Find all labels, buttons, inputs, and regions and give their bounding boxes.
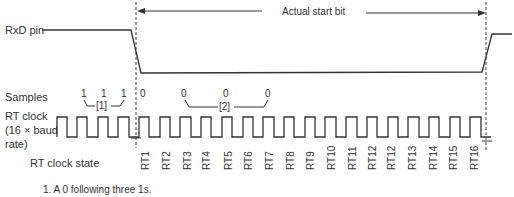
sample-value: 0 xyxy=(265,88,271,99)
rt-state-label: RT6 xyxy=(243,151,254,170)
bracket-2-right xyxy=(234,100,268,107)
rt-state-label: RT13 xyxy=(407,145,418,170)
rt-clock-waveform xyxy=(57,117,491,137)
rxd-pin-label: RxD pin xyxy=(5,24,44,36)
footnote: 1. A 0 following three 1s. xyxy=(43,184,151,195)
sample-value: 0 xyxy=(140,88,146,99)
rt-clock-label-line3: rate) xyxy=(5,138,28,150)
bracket-1-left xyxy=(84,100,95,106)
samples-row: 1 1 1 0 0 0 0 [1] [2] xyxy=(81,88,271,112)
sample-value: 1 xyxy=(81,88,87,99)
sample-value: 0 xyxy=(223,88,229,99)
bracket-2-label: [2] xyxy=(219,101,230,112)
rt-state-labels: RT1 RT2 RT3 RT4 RT5 RT6 RT7 RT8 RT9 RT10… xyxy=(140,145,480,170)
rt-clock-label-line1: RT clock xyxy=(5,110,48,122)
rt-state-label: RT12 xyxy=(367,145,378,170)
rt-state-label: RT5 xyxy=(223,151,234,170)
actual-start-bit-label: Actual start bit xyxy=(282,6,346,17)
bracket-2-left xyxy=(185,100,218,107)
rt-state-label: RT16 xyxy=(469,145,480,170)
uart-start-bit-timing-diagram: RxD pin Samples RT clock (16 × baud rate… xyxy=(0,0,514,197)
rt-state-label: RT4 xyxy=(201,151,212,170)
rt-state-label: RT14 xyxy=(428,145,439,170)
rt-state-label: RT8 xyxy=(285,151,296,170)
rt-state-label: RT12 xyxy=(386,145,397,170)
arrowhead-left-icon xyxy=(137,8,145,14)
rt-state-label: RT1 xyxy=(140,151,151,170)
rt-state-label: RT9 xyxy=(305,151,316,170)
sample-value: 1 xyxy=(121,88,127,99)
arrowhead-right-icon xyxy=(478,10,486,16)
sample-value: 1 xyxy=(101,88,107,99)
samples-label: Samples xyxy=(5,91,48,103)
rt-state-label: RT2 xyxy=(161,151,172,170)
sample-value: 0 xyxy=(181,88,187,99)
rt-state-label: RT7 xyxy=(264,151,275,170)
rxd-waveform xyxy=(42,30,512,73)
rt-state-label: RT10 xyxy=(326,145,337,170)
rt-clock-label-line2: (16 × baud xyxy=(5,124,58,136)
rt-state-label: RT15 xyxy=(448,145,459,170)
rt-clock-state-label: RT clock state xyxy=(30,157,99,169)
actual-start-bit-arrow: Actual start bit xyxy=(137,6,486,17)
rt-state-label: RT11 xyxy=(347,146,358,170)
bracket-1-label: [1] xyxy=(96,100,107,111)
bracket-1-right xyxy=(111,100,124,106)
rt-state-label: RT3 xyxy=(182,151,193,170)
